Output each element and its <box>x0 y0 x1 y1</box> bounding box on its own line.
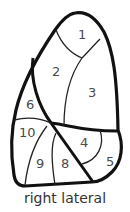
segment-label-4: 4 <box>80 135 88 150</box>
boundary-3-4 <box>51 123 117 131</box>
segment-label-5: 5 <box>106 154 114 169</box>
segment-label-1: 1 <box>78 27 86 42</box>
boundary-8-5 <box>51 123 93 182</box>
segment-label-6: 6 <box>26 97 34 112</box>
segment-label-2: 2 <box>52 64 60 79</box>
segment-label-9: 9 <box>36 156 44 171</box>
segment-diagram: 1 2 3 4 5 6 8 9 10 <box>0 0 130 212</box>
diagram-caption: right lateral <box>0 190 130 206</box>
segment-label-10: 10 <box>19 125 36 140</box>
boundary-2-3 <box>64 58 82 126</box>
boundary-6-10 <box>14 118 51 123</box>
segment-label-8: 8 <box>61 156 69 171</box>
segment-label-3: 3 <box>88 85 96 100</box>
boundary-9-8 <box>52 133 56 185</box>
boundary-6 <box>32 58 51 123</box>
